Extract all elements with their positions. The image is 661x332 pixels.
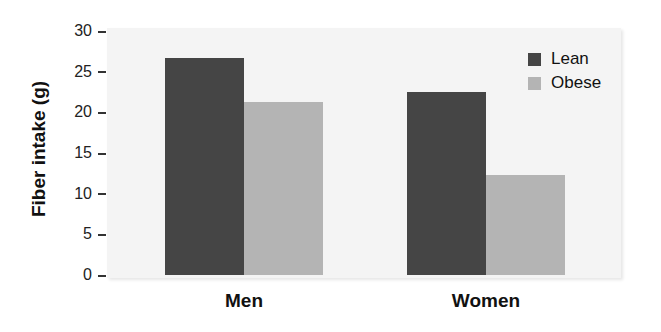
category-label-women: Women [407,290,565,312]
y-tick-30: 30 [50,23,106,39]
y-tick-mark [98,112,106,114]
y-tick-mark [98,193,106,195]
bar-women-obese [486,175,565,275]
y-tick-mark [98,234,106,236]
legend-item-obese: Obese [528,71,601,95]
y-tick-label: 5 [58,226,92,242]
bar-men-lean [165,58,244,275]
legend-swatch-obese [528,77,541,90]
y-tick-5: 5 [50,226,106,242]
y-tick-25: 25 [50,64,106,80]
legend-item-lean: Lean [528,47,601,71]
y-tick-label: 10 [58,186,92,202]
y-tick-label: 20 [58,104,92,120]
y-tick-mark [98,275,106,277]
category-label-men: Men [165,290,323,312]
y-tick-mark [98,71,106,73]
y-tick-mark [98,31,106,33]
y-tick-15: 15 [50,145,106,161]
legend-swatch-lean [528,53,541,66]
y-tick-0: 0 [50,267,106,283]
y-tick-label: 0 [58,267,92,283]
y-tick-20: 20 [50,104,106,120]
y-axis-label: Fiber intake (g) [28,54,50,244]
y-tick-10: 10 [50,186,106,202]
bar-women-lean [407,92,486,275]
legend-label-obese: Obese [551,73,601,93]
bar-men-obese [244,102,323,275]
y-tick-label: 30 [58,23,92,39]
y-tick-label: 25 [58,64,92,80]
y-tick-label: 15 [58,145,92,161]
legend: Lean Obese [528,47,601,95]
legend-label-lean: Lean [551,49,589,69]
y-tick-mark [98,153,106,155]
